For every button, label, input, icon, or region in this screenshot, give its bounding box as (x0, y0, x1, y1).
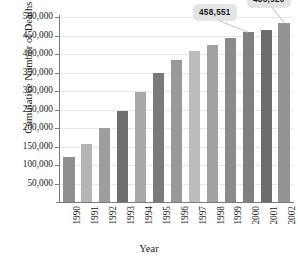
y-axis-tick-label: 100,000 (0, 160, 53, 169)
bar (225, 38, 236, 202)
y-axis-tick-label: 350,000 (0, 68, 53, 77)
x-axis-tick-label: 1998 (217, 206, 226, 246)
y-axis-tick-mark (55, 54, 60, 55)
x-axis-tick-label: 1992 (109, 206, 118, 246)
y-axis-tick-label: 200,000 (0, 123, 53, 132)
y-axis-tick-mark (55, 128, 60, 129)
bar (135, 92, 146, 202)
x-axis-tick-label: 1993 (127, 206, 136, 246)
y-axis-tick-label: 450,000 (0, 31, 53, 40)
bar (99, 128, 110, 202)
y-axis-tick-mark (55, 36, 60, 37)
gridline (60, 54, 293, 55)
x-axis-tick-label: 1999 (234, 206, 243, 246)
x-axis-tick-label: 1991 (91, 206, 100, 246)
bar (117, 111, 128, 202)
bar (243, 32, 254, 202)
y-axis-tick-label: 400,000 (0, 49, 53, 58)
bar (63, 157, 74, 202)
y-axis-tick-label: 50,000 (0, 179, 53, 188)
bar (278, 23, 289, 202)
x-axis-tick-label: 1990 (73, 206, 82, 246)
bar (207, 45, 218, 202)
y-axis-tick-label: 250,000 (0, 105, 53, 114)
y-axis-tick-mark (55, 147, 60, 148)
y-axis-tick-mark (55, 110, 60, 111)
y-axis-tick-mark (55, 184, 60, 185)
gridline (60, 17, 293, 18)
bar (81, 144, 92, 202)
y-axis-tick-mark (55, 17, 60, 18)
x-axis-tick-label: 2002 (288, 206, 297, 246)
y-axis-tick-labels: 500,000450,000400,000350,000300,000250,0… (0, 0, 53, 261)
bar (261, 30, 272, 202)
bar (153, 73, 164, 202)
y-axis-tick-mark (55, 73, 60, 74)
gridline (60, 36, 293, 37)
x-axis-tick-label: 1997 (199, 206, 208, 246)
x-axis-tick-label: 1996 (181, 206, 190, 246)
value-callout: 483,920 (248, 0, 290, 7)
bar-chart: Cumulative Number of Deaths 500,000450,0… (0, 0, 298, 261)
y-axis-tick-label: 500,000 (0, 12, 53, 21)
value-callout: 458,551 (194, 5, 236, 20)
x-axis-tick-label: 2000 (252, 206, 261, 246)
x-axis-tick-label: 1994 (145, 206, 154, 246)
y-axis-tick-mark (55, 165, 60, 166)
y-axis-tick-label: 150,000 (0, 142, 53, 151)
bar (171, 60, 182, 202)
y-axis-tick-label: 300,000 (0, 86, 53, 95)
x-axis-tick-label: 2001 (270, 206, 279, 246)
x-axis-line (56, 202, 294, 203)
plot-area (60, 17, 293, 202)
y-axis-tick-mark (55, 91, 60, 92)
x-axis-tick-label: 1995 (163, 206, 172, 246)
bar (189, 51, 200, 202)
